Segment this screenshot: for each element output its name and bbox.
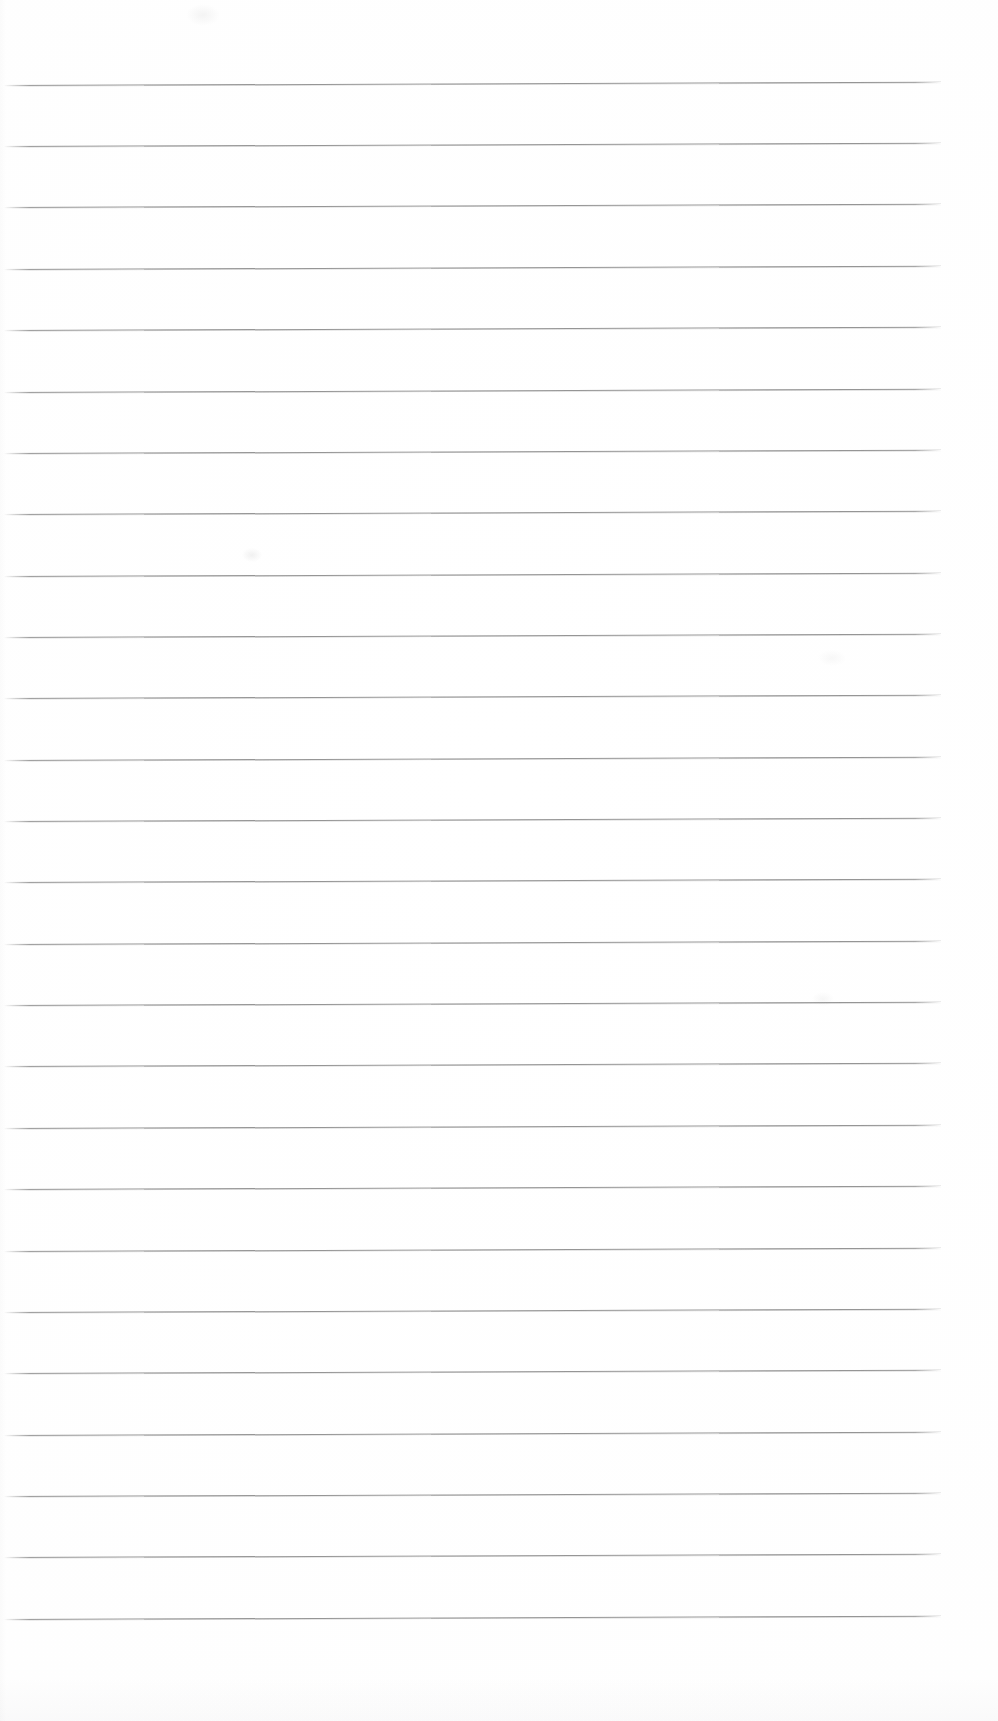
ruled-line	[4, 143, 941, 147]
ruled-line	[4, 818, 941, 822]
scanned-notebook-page	[0, 0, 998, 1721]
ruled-line	[4, 941, 941, 945]
ruled-line	[4, 82, 941, 86]
ruled-line	[4, 757, 941, 761]
ruled-line	[4, 695, 941, 699]
ruled-line	[4, 204, 941, 208]
ruled-line	[4, 1125, 941, 1129]
ruled-line	[4, 1616, 941, 1620]
ruled-line	[4, 266, 941, 270]
ruled-line	[4, 573, 941, 577]
ruled-line	[4, 634, 941, 638]
ruled-line	[4, 1432, 941, 1436]
ruled-line	[4, 879, 941, 883]
ruled-line	[4, 1248, 941, 1252]
ruled-line	[4, 1186, 941, 1190]
ruled-line	[4, 389, 941, 393]
ruled-line	[4, 450, 941, 454]
ruled-line	[4, 511, 941, 515]
ruled-line	[4, 1554, 941, 1558]
ruled-line	[4, 1063, 941, 1067]
ruled-line	[4, 1370, 941, 1374]
ruled-line	[4, 1002, 941, 1006]
ruled-line	[4, 1493, 941, 1497]
ruled-line	[4, 1309, 941, 1313]
ruled-line	[4, 327, 941, 331]
ruled-line-layer	[0, 0, 998, 1721]
